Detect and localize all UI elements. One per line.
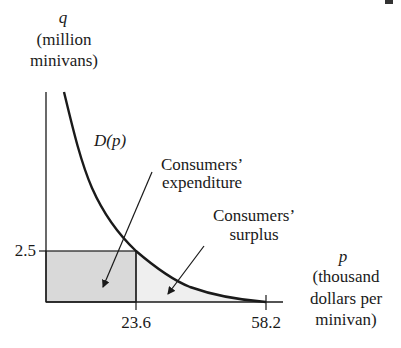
surplus-label-line2: surplus [206,225,302,244]
surplus-label-line1: Consumers’ [206,206,302,225]
y-axis-symbol: q [50,8,76,27]
expenditure-label-line2: expenditure [152,173,252,192]
y-axis-units-line2: minivans) [8,51,120,70]
consumers-surplus-region [136,251,266,302]
x-axis-units-line3: minivan) [296,310,396,329]
x-axis-symbol: p [330,247,356,266]
y-tick-label: 2.5 [4,241,36,260]
x-tick-label-58.2: 58.2 [246,313,286,332]
x-tick-label-23.6: 23.6 [116,313,156,332]
curve-label: D(p) [94,131,126,150]
y-axis-units-line1: (million [14,30,114,49]
x-axis-units-line1: (thousand [296,267,396,286]
expenditure-label-line1: Consumers’ [152,155,252,174]
x-axis-units-line2: dollars per [290,289,401,308]
consumers-expenditure-region [46,251,136,302]
